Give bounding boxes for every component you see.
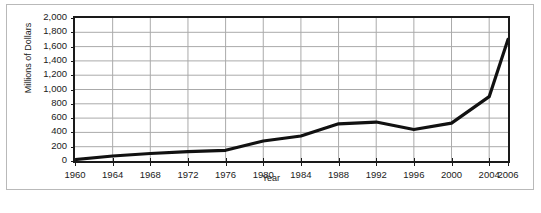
x-axis-tick-mark <box>226 158 227 166</box>
plot-area <box>73 16 510 163</box>
x-axis-tick-mark <box>508 158 509 166</box>
line-chart-svg <box>75 18 508 161</box>
y-axis-tick-label: 1,000 <box>23 83 67 94</box>
x-axis-tick-mark <box>301 158 302 166</box>
y-axis-tick-label: 200 <box>23 140 67 151</box>
x-axis-tick-mark <box>452 158 453 166</box>
series-polyline <box>75 39 508 159</box>
y-axis-tick-label: 2,000 <box>23 11 67 22</box>
y-axis-tick-label: 600 <box>23 111 67 122</box>
x-axis-tick-mark <box>414 158 415 166</box>
y-axis-tick-label: 800 <box>23 97 67 108</box>
chart-panel: Millions of Dollars 2,0001,8001,6001,400… <box>6 4 534 190</box>
x-axis-tick-mark <box>113 158 114 166</box>
x-axis-tick-mark <box>188 158 189 166</box>
x-axis-tick-mark <box>75 158 76 166</box>
y-axis-tick-label: 1,400 <box>23 54 67 65</box>
y-axis-tick-label: 0 <box>23 154 67 165</box>
chart-figure: Millions of Dollars 2,0001,8001,6001,400… <box>0 0 541 213</box>
y-axis-tick-label: 1,800 <box>23 25 67 36</box>
x-axis-tick-mark <box>150 158 151 166</box>
x-axis-tick-mark <box>376 158 377 166</box>
x-axis-tick-mark <box>263 158 264 166</box>
plot-area-wrapper <box>73 16 510 163</box>
x-axis-title: Year <box>7 173 535 183</box>
y-axis-tick-label: 400 <box>23 125 67 136</box>
x-axis-tick-mark <box>489 158 490 166</box>
y-axis-tick-label: 1,200 <box>23 68 67 79</box>
x-axis-tick-mark <box>339 158 340 166</box>
y-axis-tick-labels: 2,0001,8001,6001,4001,2001,0008006004002… <box>19 16 67 163</box>
data-series-line <box>75 39 508 159</box>
y-axis-tick-label: 1,600 <box>23 40 67 51</box>
gridlines <box>75 18 508 161</box>
